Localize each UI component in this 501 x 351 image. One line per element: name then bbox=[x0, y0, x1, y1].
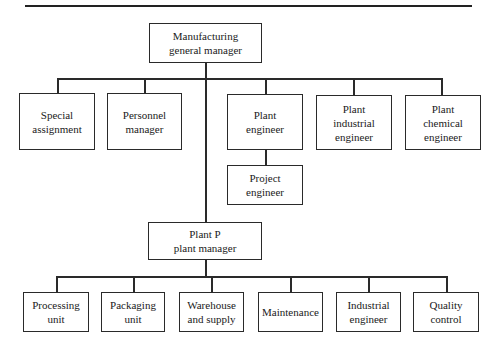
connector-plant-chemical bbox=[441, 78, 443, 95]
top-rule bbox=[25, 5, 472, 7]
connector-industrial bbox=[368, 276, 370, 292]
box-label: Plant engineer bbox=[246, 108, 284, 136]
box-label: Maintenance bbox=[262, 305, 319, 319]
box-label: Industrial engineer bbox=[347, 298, 389, 326]
box-label: Quality control bbox=[430, 298, 463, 326]
connector-gm-down bbox=[205, 63, 207, 222]
box-industrial-engineer: Industrial engineer bbox=[336, 292, 401, 332]
box-label: Personnel manager bbox=[123, 108, 166, 136]
box-plant-p-plant-manager: Plant P plant manager bbox=[148, 222, 262, 260]
box-label: Plant chemical engineer bbox=[423, 102, 463, 144]
box-label: Manufacturing general manager bbox=[169, 29, 242, 57]
connector-dept-bar bbox=[56, 276, 447, 278]
connector-project bbox=[265, 150, 267, 165]
box-label: Processing unit bbox=[32, 298, 80, 326]
connector-packaging bbox=[133, 276, 135, 292]
box-label: Warehouse and supply bbox=[187, 298, 236, 326]
connector-warehouse bbox=[211, 276, 213, 292]
connector-pm-down bbox=[205, 260, 207, 276]
box-quality-control: Quality control bbox=[413, 292, 479, 332]
box-plant-industrial-engineer: Plant industrial engineer bbox=[316, 95, 392, 150]
box-plant-chemical-engineer: Plant chemical engineer bbox=[405, 95, 481, 150]
connector-special bbox=[57, 78, 59, 93]
connector-processing bbox=[56, 276, 58, 292]
box-label: Plant industrial engineer bbox=[333, 102, 375, 144]
connector-maintenance bbox=[290, 276, 292, 292]
box-warehouse-and-supply: Warehouse and supply bbox=[179, 292, 244, 332]
connector-plant-industrial bbox=[353, 78, 355, 95]
box-project-engineer: Project engineer bbox=[227, 165, 303, 205]
box-processing-unit: Processing unit bbox=[23, 292, 89, 332]
box-personnel-manager: Personnel manager bbox=[107, 93, 182, 150]
connector-quality bbox=[446, 276, 448, 292]
connector-personnel bbox=[144, 78, 146, 93]
box-label: Packaging unit bbox=[110, 298, 156, 326]
box-special-assignment: Special assignment bbox=[19, 93, 95, 150]
box-packaging-unit: Packaging unit bbox=[101, 292, 165, 332]
connector-plant-engineer bbox=[265, 78, 267, 94]
box-label: Special assignment bbox=[32, 108, 82, 136]
connector-staff-bar bbox=[57, 78, 442, 80]
box-manufacturing-general-manager: Manufacturing general manager bbox=[149, 23, 262, 63]
box-label: Plant P plant manager bbox=[174, 227, 237, 255]
box-plant-engineer: Plant engineer bbox=[227, 94, 303, 150]
box-label: Project engineer bbox=[246, 171, 284, 199]
box-maintenance: Maintenance bbox=[258, 292, 323, 332]
